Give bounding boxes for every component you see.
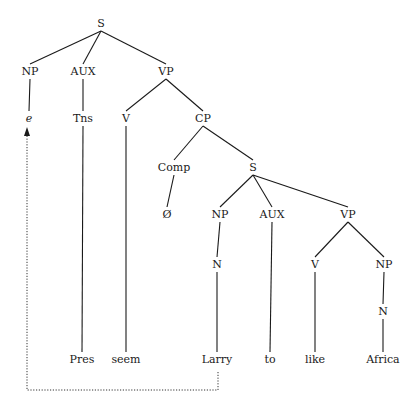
tree-node-n1: N bbox=[201, 258, 233, 271]
tree-node-e: e bbox=[13, 112, 45, 125]
tree-edge-vp2-np3 bbox=[348, 222, 384, 257]
node-label: CP bbox=[195, 112, 211, 125]
tree-edge-s2-vp2 bbox=[253, 175, 348, 207]
tree-node-vp2: VP bbox=[332, 208, 364, 221]
tree-node-to: to bbox=[254, 353, 286, 366]
node-label: S bbox=[97, 17, 105, 30]
node-label: Tns bbox=[73, 112, 93, 125]
tree-edge-comp-null bbox=[167, 175, 174, 207]
node-label: NP bbox=[211, 208, 229, 221]
tree-node-aux2: AUX bbox=[256, 208, 288, 221]
node-label: VP bbox=[157, 65, 174, 78]
tree-edge-tns-pres bbox=[82, 126, 83, 352]
tree-edge-cp-comp bbox=[174, 126, 203, 160]
tree-node-seem: seem bbox=[110, 353, 142, 366]
node-label: NP bbox=[21, 65, 39, 78]
tree-node-tns: Tns bbox=[67, 112, 99, 125]
tree-edge-s2-aux2 bbox=[253, 175, 272, 207]
tree-edge-cp-s2 bbox=[203, 126, 253, 160]
node-label: N bbox=[378, 305, 388, 318]
node-label: S bbox=[249, 161, 257, 174]
tree-edge-np2-n1 bbox=[217, 222, 220, 257]
node-label: seem bbox=[111, 353, 141, 366]
tree-node-np3: NP bbox=[368, 258, 400, 271]
tree-edge-np1-e bbox=[29, 79, 30, 111]
tree-edge-aux2-to bbox=[270, 222, 272, 352]
tree-edge-vp1-cp bbox=[166, 79, 203, 111]
tree-node-comp: Comp bbox=[158, 161, 191, 174]
node-label: Larry bbox=[202, 353, 233, 366]
node-label: VP bbox=[339, 208, 356, 221]
node-label: N bbox=[212, 258, 222, 271]
tree-edge-vp1-v1 bbox=[126, 79, 166, 111]
tree-node-larry: Larry bbox=[201, 353, 233, 366]
syntax-tree-diagram: SNPAUXVPeTnsVCPCompSØNPAUXVPNVNPNPressee… bbox=[0, 0, 420, 407]
tree-node-v1: V bbox=[110, 112, 142, 125]
tree-node-n2: N bbox=[367, 305, 399, 318]
tree-edge-s2-np2 bbox=[220, 175, 253, 207]
tree-node-pres: Pres bbox=[66, 353, 98, 366]
tree-node-null: Ø bbox=[151, 208, 183, 221]
tree-node-s1: S bbox=[85, 17, 117, 30]
node-label: to bbox=[264, 353, 275, 366]
tree-node-np1: NP bbox=[14, 65, 46, 78]
arrowhead-icon bbox=[24, 127, 30, 136]
tree-node-s2: S bbox=[237, 161, 269, 174]
tree-edge-vp2-v2 bbox=[315, 222, 348, 257]
node-label: like bbox=[305, 353, 325, 366]
tree-node-africa: Africa bbox=[365, 353, 400, 366]
tree-edges bbox=[29, 31, 384, 352]
node-label: AUX bbox=[69, 65, 95, 78]
node-label: V bbox=[121, 112, 131, 125]
tree-edge-np3-n2 bbox=[383, 272, 384, 304]
tree-node-aux1: AUX bbox=[67, 65, 99, 78]
node-label: Comp bbox=[158, 161, 191, 174]
node-label: Pres bbox=[70, 353, 95, 366]
node-label: V bbox=[310, 258, 320, 271]
node-label: AUX bbox=[258, 208, 284, 221]
tree-node-cp: CP bbox=[187, 112, 219, 125]
tree-nodes: SNPAUXVPeTnsVCPCompSØNPAUXVPNVNPNPressee… bbox=[13, 17, 400, 366]
tree-edge-s1-vp1 bbox=[101, 31, 166, 64]
node-label: NP bbox=[375, 258, 393, 271]
tree-node-np2: NP bbox=[204, 208, 236, 221]
tree-edge-s1-np1 bbox=[30, 31, 101, 64]
node-label: Africa bbox=[365, 353, 400, 366]
tree-node-vp1: VP bbox=[150, 65, 182, 78]
tree-node-like: like bbox=[299, 353, 331, 366]
node-label: Ø bbox=[162, 208, 171, 221]
node-label: e bbox=[26, 112, 33, 125]
tree-edge-s1-aux1 bbox=[83, 31, 101, 64]
tree-node-v2: V bbox=[299, 258, 331, 271]
